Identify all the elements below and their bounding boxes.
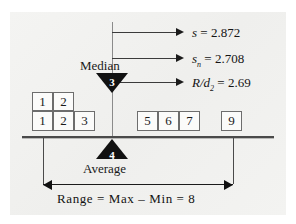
double-headed-arrow-icon xyxy=(224,180,233,190)
data-box: 9 xyxy=(221,111,242,131)
range-tick-right xyxy=(233,138,234,184)
data-box: 1 xyxy=(32,92,53,111)
data-box: 2 xyxy=(53,92,74,111)
formula-population-sd: sn = 2.708 xyxy=(192,51,244,69)
data-box: 6 xyxy=(158,111,179,131)
double-headed-arrow-icon xyxy=(43,180,52,190)
data-box: 1 xyxy=(32,111,53,131)
formula-subscript: n xyxy=(197,60,201,69)
arrow-head-icon xyxy=(176,78,184,86)
axis-shadow xyxy=(22,138,274,139)
arrow-to-population-sd xyxy=(112,54,186,63)
formula-equals: = xyxy=(217,75,224,90)
formula-value: 2.708 xyxy=(215,51,244,66)
formula-equals: = xyxy=(204,51,211,66)
arrow-head-icon xyxy=(176,54,184,62)
formula-subscript: 2 xyxy=(210,84,214,93)
median-value: 3 xyxy=(102,76,122,88)
average-label: Average xyxy=(83,161,126,177)
formula-equals: = xyxy=(200,25,207,40)
data-box: 7 xyxy=(179,111,200,131)
data-box: 3 xyxy=(74,111,95,131)
arrow-shaft xyxy=(112,58,178,59)
median-label: Median xyxy=(80,58,120,74)
formula-range-over-d2: R/d2 = 2.69 xyxy=(192,75,251,93)
arrow-head-icon xyxy=(176,28,184,36)
data-box: 2 xyxy=(53,111,74,131)
range-caption: Range = Max – Min = 8 xyxy=(57,191,195,207)
arrow-shaft xyxy=(112,32,178,33)
formula-value: 2.872 xyxy=(211,25,240,40)
figure-canvas: s = 2.872 sn = 2.708 R/d2 = 2.69 Median … xyxy=(0,0,296,224)
formula-symbol: s xyxy=(192,25,197,40)
arrow-to-sample-sd xyxy=(112,28,186,37)
range-tick-left xyxy=(43,138,44,184)
range-arrow-shaft xyxy=(43,184,233,185)
formula-sample-sd: s = 2.872 xyxy=(192,25,240,41)
average-value: 4 xyxy=(102,149,122,161)
formula-symbol: R/d xyxy=(192,75,210,90)
data-box: 5 xyxy=(137,111,158,131)
formula-value: 2.69 xyxy=(228,75,251,90)
